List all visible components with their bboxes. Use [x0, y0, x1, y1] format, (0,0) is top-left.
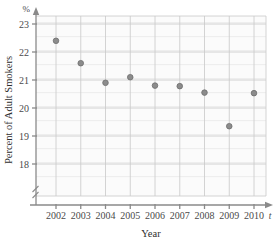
x-axis-tick-label: 2004: [96, 210, 116, 221]
data-point: [152, 83, 158, 89]
y-axis-tick-label: 21: [19, 75, 29, 86]
y-axis-unit-label: %: [23, 4, 31, 14]
y-axis-tick-label: 20: [19, 103, 29, 114]
x-axis-tick-label: 2010: [244, 210, 264, 221]
y-axis-tick-label: 18: [19, 159, 29, 170]
y-axis-arrow-icon: [33, 7, 39, 15]
data-point-marker: [152, 83, 158, 89]
data-point: [103, 80, 109, 86]
data-point-marker: [103, 80, 109, 86]
plot-background: [36, 16, 266, 196]
y-axis-tick-label: 22: [19, 47, 29, 58]
x-axis-tick-label: 2002: [46, 210, 66, 221]
data-point: [177, 83, 183, 89]
chart-page: 181920212223%200220032004200520062007200…: [0, 0, 278, 245]
data-point-marker: [251, 90, 257, 96]
x-axis-variable-label: t: [269, 211, 272, 221]
data-point: [251, 90, 257, 96]
x-axis-tick-label: 2003: [71, 210, 91, 221]
data-point-marker: [202, 90, 208, 96]
x-axis-tick-label: 2008: [195, 210, 215, 221]
x-axis-tick-label: 2005: [120, 210, 140, 221]
data-point-marker: [127, 74, 133, 80]
data-point: [53, 38, 59, 44]
y-axis-tick-label: 23: [19, 19, 29, 30]
data-point: [78, 60, 84, 66]
scatter-chart: 181920212223%200220032004200520062007200…: [0, 0, 278, 245]
data-point: [202, 90, 208, 96]
data-point-marker: [226, 123, 232, 129]
x-axis-tick-label: 2007: [170, 210, 190, 221]
x-axis-title: Year: [141, 228, 161, 239]
y-axis-tick-label: 19: [19, 131, 29, 142]
x-axis-tick-label: 2009: [219, 210, 239, 221]
data-point-marker: [53, 38, 59, 44]
y-axis-title: Percent of Adult Smokers: [3, 56, 14, 164]
data-point-marker: [78, 60, 84, 66]
x-axis-tick-label: 2006: [145, 210, 165, 221]
data-point-marker: [177, 83, 183, 89]
data-point: [226, 123, 232, 129]
x-axis-arrow-icon: [265, 202, 273, 208]
data-point: [127, 74, 133, 80]
